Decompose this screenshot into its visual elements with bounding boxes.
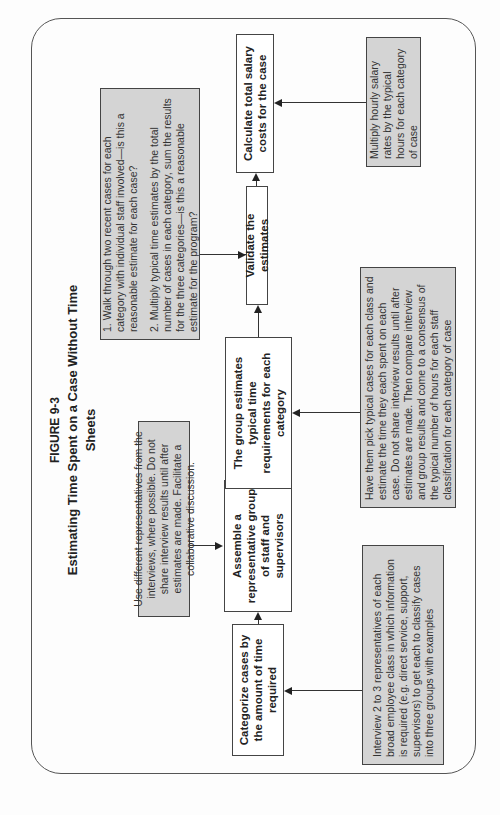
connector-have-them-group bbox=[300, 412, 360, 413]
arrow-icon bbox=[238, 251, 246, 259]
figure-heading: Estimating Time Spent on a Case Without … bbox=[64, 280, 100, 580]
step-validate: Validate the estimates bbox=[246, 186, 268, 305]
note-multiply-text: Multiply hourly salary rates by the typi… bbox=[368, 45, 420, 159]
note-multiply: Multiply hourly salary rates by the typi… bbox=[366, 37, 421, 167]
note-have-them-text: Have them pick typical cases for each cl… bbox=[363, 275, 454, 500]
step-calculate-label: Calculate total salary costs for the cas… bbox=[241, 41, 269, 166]
connector-multiply-calculate bbox=[282, 102, 366, 103]
note-interview-text: Interview 2 to 3 representatives of each… bbox=[371, 553, 436, 757]
step-categorize: Categorize cases by the amount of time r… bbox=[232, 624, 284, 756]
arrow-icon bbox=[252, 173, 260, 181]
note-validate-2: 2. Multiply typical time estimates by th… bbox=[148, 96, 200, 332]
figure-label: FIGURE 9-3 bbox=[46, 280, 64, 580]
note-have-them: Have them pick typical cases for each cl… bbox=[360, 267, 456, 508]
arrow-icon bbox=[254, 305, 262, 313]
figure-title: FIGURE 9-3 Estimating Time Spent on a Ca… bbox=[46, 280, 100, 580]
step-categorize-label: Categorize cases by the amount of time r… bbox=[237, 631, 279, 749]
connector-interview-categorize bbox=[292, 690, 362, 691]
step-group-estimates: The group estimates typical time require… bbox=[225, 337, 292, 489]
note-validate-1: 1. Walk through two recent cases for eac… bbox=[101, 96, 140, 332]
connector-use-different-assemble bbox=[190, 545, 216, 546]
step-assemble: Assemble a representative group of staff… bbox=[224, 480, 292, 612]
diagram-canvas: FIGURE 9-3 Estimating Time Spent on a Ca… bbox=[0, 0, 500, 815]
note-use-different-text: Use different representatives from the i… bbox=[132, 429, 197, 609]
note-use-different: Use different representatives from the i… bbox=[138, 421, 190, 617]
connector-group-validate bbox=[258, 311, 259, 337]
step-calculate: Calculate total salary costs for the cas… bbox=[236, 34, 274, 173]
arrow-icon bbox=[215, 542, 223, 550]
step-validate-label: Validate the estimates bbox=[243, 193, 271, 298]
arrow-icon bbox=[284, 687, 292, 695]
step-group-estimates-label: The group estimates typical time require… bbox=[231, 344, 287, 482]
step-assemble-label: Assemble a representative group of staff… bbox=[230, 487, 286, 605]
arrow-icon bbox=[254, 612, 262, 620]
arrow-icon bbox=[292, 409, 300, 417]
arrow-icon bbox=[274, 99, 282, 107]
note-interview: Interview 2 to 3 representatives of each… bbox=[362, 545, 444, 765]
note-validate-questions: 1. Walk through two recent cases for eac… bbox=[100, 88, 200, 340]
